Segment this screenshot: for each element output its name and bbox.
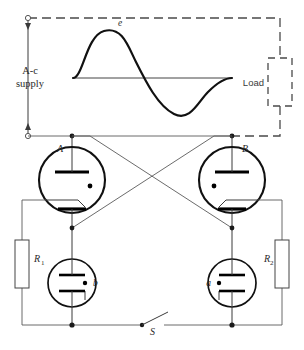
load-label: Load: [243, 77, 264, 88]
supply-terminal-top[interactable]: [25, 15, 30, 20]
right-dashed-rail: [232, 106, 280, 136]
tube-b-grid-dot: [212, 184, 217, 189]
switch-label: S: [150, 326, 155, 337]
r2-subscript: 2: [270, 259, 274, 267]
supply-arrow-down: [25, 123, 31, 130]
tube-b-lower-grid-dot: [83, 281, 87, 285]
r1-subscript: 1: [41, 259, 45, 267]
tube-a-lower-grid-dot: [217, 281, 221, 285]
cross-wire-b-to-a: [72, 136, 232, 228]
upper-plate-rail: [28, 134, 234, 139]
r1-label: R: [33, 253, 40, 264]
load-component: Load: [243, 58, 292, 106]
tube-b[interactable]: B: [199, 136, 265, 240]
supply-branch: [25, 15, 31, 138]
sine-wave-path: [73, 30, 232, 116]
supply-label-line2: supply: [16, 78, 45, 89]
tube-a-label: A: [56, 143, 64, 154]
r2-label: R: [263, 253, 270, 264]
tube-lower-a-label: a: [206, 278, 211, 288]
load-box: [268, 58, 292, 106]
tube-b-label: B: [242, 143, 248, 154]
node-bottom-right: [229, 322, 234, 327]
diagram-canvas: A-c supply Load e A: [0, 0, 304, 350]
tube-a-grid-dot: [88, 184, 93, 189]
node-tube-a-cathode: [70, 226, 75, 231]
top-dashed-rail: [28, 18, 280, 58]
tube-a[interactable]: A: [39, 136, 105, 240]
node-bottom-left: [69, 322, 74, 327]
supply-arrow-up: [25, 23, 31, 30]
waveform-group: e: [73, 18, 232, 116]
tube-lower-b[interactable]: b: [48, 240, 98, 325]
node-tube-b-cathode: [230, 226, 235, 231]
cross-coupling-wires: [72, 136, 232, 228]
tube-lower-b-label: b: [93, 278, 98, 288]
cross-wire-a-to-b: [72, 136, 232, 228]
supply-label-line1: A-c: [22, 65, 38, 76]
switch-blade[interactable]: [142, 312, 168, 325]
tube-lower-a[interactable]: a: [206, 240, 256, 325]
r2-top-wire: [258, 200, 282, 240]
resistor-r1[interactable]: R 1: [15, 240, 45, 288]
r2-body: [275, 240, 289, 288]
r1-body: [15, 240, 29, 288]
r1-top-wire: [22, 200, 46, 240]
waveform-label-e: e: [118, 18, 122, 28]
switch-s[interactable]: S: [140, 312, 168, 337]
circuit-diagram: A-c supply Load e A: [0, 0, 304, 350]
resistor-r2[interactable]: R 2: [263, 240, 289, 288]
